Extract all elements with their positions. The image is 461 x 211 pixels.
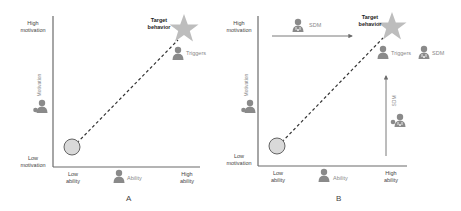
sdm-label-vertical: SDM	[391, 93, 397, 109]
ability-person-icon-a	[114, 170, 125, 183]
sdm-vertical-dot	[391, 120, 396, 125]
motivation-person-icon-a	[37, 100, 48, 113]
motivation-dot-b	[241, 108, 246, 113]
path-dashed-b	[278, 38, 383, 146]
x-low-label-a: Low ability	[58, 171, 88, 184]
triggers-person-icon-a	[173, 47, 184, 60]
triggers-label-a: Triggers	[186, 50, 206, 56]
path-dashed-a	[73, 40, 178, 147]
x-high-label-b: High ability	[376, 170, 406, 183]
triggers-person-icon-b	[378, 46, 389, 59]
y-axis-title-a: Motivation	[36, 70, 42, 100]
x-axis-title-b: Ability	[333, 175, 348, 181]
sdm-doctor-icon-top	[293, 19, 304, 32]
target-behavior-label-a: Target behavior	[143, 17, 175, 30]
y-axis-title-b: Motivation	[243, 70, 249, 100]
panel-a	[33, 14, 200, 183]
panel-b	[241, 12, 429, 182]
motivation-person-icon-b	[245, 100, 256, 113]
start-circle-b	[269, 138, 285, 154]
sdm-doctor-icon-vertical	[395, 114, 406, 127]
y-high-label-b: High motivation	[222, 20, 256, 33]
x-high-label-a: High ability	[172, 171, 202, 184]
target-behavior-label-b: Target behavior	[354, 14, 386, 27]
x-low-label-b: Low ability	[263, 170, 293, 183]
sdm-label-triggers: SDM	[432, 50, 444, 56]
y-low-label-b: Low motivation	[222, 153, 256, 166]
y-high-label-a: High motivation	[16, 20, 50, 33]
motivation-dot-a	[33, 108, 38, 113]
panel-letter-a: A	[126, 194, 131, 203]
sdm-label-top: SDM	[309, 22, 321, 28]
start-circle-a	[64, 139, 80, 155]
ability-person-icon-b	[319, 169, 330, 182]
sdm-doctor-icon-triggers	[419, 46, 430, 59]
x-axis-title-a: Ability	[127, 175, 142, 181]
y-low-label-a: Low motivation	[16, 155, 50, 168]
triggers-label-b: Triggers	[391, 50, 411, 56]
panel-letter-b: B	[336, 194, 341, 203]
